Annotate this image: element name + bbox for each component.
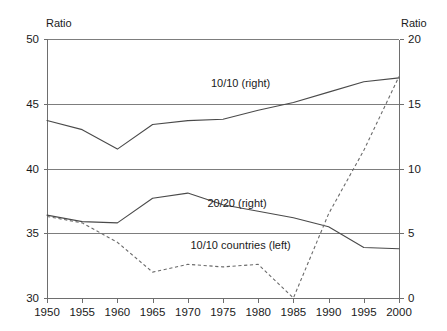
left-tick-label-40: 40 bbox=[26, 163, 39, 175]
dual-axis-line-chart: 5045403530 20151050 19501955196019651970… bbox=[0, 0, 447, 331]
series-group bbox=[47, 77, 399, 298]
x-tick-label-1965: 1965 bbox=[140, 306, 166, 318]
x-axis-tick-labels: 1950195519601965197019751980198519901995… bbox=[34, 306, 412, 318]
left-tick-label-50: 50 bbox=[26, 33, 39, 45]
series-line-3 bbox=[47, 77, 399, 298]
series-label-3: 10/10 countries (left) bbox=[190, 239, 290, 251]
x-tick-label-1955: 1955 bbox=[69, 306, 95, 318]
x-tick-label-1995: 1995 bbox=[351, 306, 377, 318]
x-tick-label-1950: 1950 bbox=[34, 306, 60, 318]
x-tick-label-1960: 1960 bbox=[105, 306, 131, 318]
x-tick-label-1985: 1985 bbox=[281, 306, 307, 318]
x-tick-label-1975: 1975 bbox=[210, 306, 236, 318]
series-inline-labels: 10/10 (right)20/20 (right)10/10 countrie… bbox=[190, 77, 290, 251]
series-label-2: 20/20 (right) bbox=[207, 197, 266, 209]
right-axis-title: Ratio bbox=[401, 17, 427, 29]
right-axis-tick-labels: 20151050 bbox=[408, 33, 421, 304]
left-tick-label-45: 45 bbox=[26, 98, 39, 110]
left-axis-title: Ratio bbox=[46, 17, 72, 29]
x-tick-label-2000: 2000 bbox=[386, 306, 412, 318]
left-tick-label-35: 35 bbox=[26, 227, 39, 239]
x-tick-label-1970: 1970 bbox=[175, 306, 201, 318]
x-tick-label-1990: 1990 bbox=[316, 306, 342, 318]
left-tick-label-30: 30 bbox=[26, 292, 39, 304]
right-tick-label-10: 10 bbox=[408, 163, 421, 175]
left-axis-tick-labels: 5045403530 bbox=[26, 33, 39, 304]
x-tick-label-1980: 1980 bbox=[245, 306, 271, 318]
right-tick-label-15: 15 bbox=[408, 98, 421, 110]
right-tick-label-5: 5 bbox=[408, 227, 414, 239]
right-tick-label-20: 20 bbox=[408, 33, 421, 45]
series-label-1: 10/10 (right) bbox=[211, 77, 270, 89]
right-tick-label-0: 0 bbox=[408, 292, 414, 304]
chart-canvas: 5045403530 20151050 19501955196019651970… bbox=[0, 0, 447, 331]
